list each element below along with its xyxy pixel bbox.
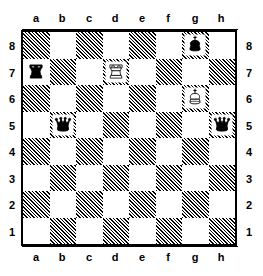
square-b7[interactable]	[50, 59, 77, 86]
chess-diagram: a b c d e f g h a b c d e f g h 8 7 6 5 …	[0, 0, 263, 276]
black-rook-icon[interactable]	[25, 61, 47, 83]
file-label-top-d: d	[108, 13, 122, 24]
square-d4[interactable]	[103, 138, 130, 165]
file-label-bottom-h: h	[214, 252, 228, 263]
square-a6[interactable]	[23, 85, 50, 112]
rank-label-right-5: 5	[243, 121, 255, 132]
square-e5[interactable]	[129, 112, 156, 139]
rank-label-left-7: 7	[6, 68, 18, 79]
piece-backdrop	[105, 61, 126, 82]
rank-label-right-4: 4	[243, 147, 255, 158]
square-e2[interactable]	[129, 191, 156, 218]
square-g5[interactable]	[182, 112, 209, 139]
board-border	[21, 30, 237, 246]
file-label-top-b: b	[55, 13, 69, 24]
square-h4[interactable]	[209, 138, 236, 165]
square-c4[interactable]	[76, 138, 103, 165]
square-f8[interactable]	[156, 32, 183, 59]
square-f1[interactable]	[156, 218, 183, 245]
square-h7[interactable]	[209, 59, 236, 86]
square-h2[interactable]	[209, 191, 236, 218]
file-label-top-h: h	[214, 13, 228, 24]
file-label-top-c: c	[82, 13, 96, 24]
square-d3[interactable]	[103, 165, 130, 192]
file-label-bottom-g: g	[188, 252, 202, 263]
square-e4[interactable]	[129, 138, 156, 165]
file-label-bottom-a: a	[29, 252, 43, 263]
square-g6[interactable]	[182, 85, 209, 112]
square-h6[interactable]	[209, 85, 236, 112]
chess-board	[23, 32, 235, 244]
square-c6[interactable]	[76, 85, 103, 112]
square-a2[interactable]	[23, 191, 50, 218]
square-b4[interactable]	[50, 138, 77, 165]
square-c3[interactable]	[76, 165, 103, 192]
square-g4[interactable]	[182, 138, 209, 165]
square-a1[interactable]	[23, 218, 50, 245]
square-h5[interactable]	[209, 112, 236, 139]
square-b6[interactable]	[50, 85, 77, 112]
square-e1[interactable]	[129, 218, 156, 245]
square-b1[interactable]	[50, 218, 77, 245]
rank-label-right-8: 8	[243, 41, 255, 52]
square-b5[interactable]	[50, 112, 77, 139]
square-f2[interactable]	[156, 191, 183, 218]
file-label-top-g: g	[188, 13, 202, 24]
square-b2[interactable]	[50, 191, 77, 218]
rank-label-left-5: 5	[6, 121, 18, 132]
square-e8[interactable]	[129, 32, 156, 59]
square-f3[interactable]	[156, 165, 183, 192]
rank-label-right-2: 2	[243, 200, 255, 211]
square-f6[interactable]	[156, 85, 183, 112]
square-f4[interactable]	[156, 138, 183, 165]
square-d6[interactable]	[103, 85, 130, 112]
square-g7[interactable]	[182, 59, 209, 86]
square-e6[interactable]	[129, 85, 156, 112]
file-label-bottom-d: d	[108, 252, 122, 263]
square-f5[interactable]	[156, 112, 183, 139]
square-c1[interactable]	[76, 218, 103, 245]
piece-backdrop	[185, 35, 206, 56]
rank-label-left-8: 8	[6, 41, 18, 52]
file-label-top-e: e	[135, 13, 149, 24]
square-f7[interactable]	[156, 59, 183, 86]
square-h1[interactable]	[209, 218, 236, 245]
square-c2[interactable]	[76, 191, 103, 218]
square-a5[interactable]	[23, 112, 50, 139]
square-d2[interactable]	[103, 191, 130, 218]
square-g1[interactable]	[182, 218, 209, 245]
square-d8[interactable]	[103, 32, 130, 59]
rank-label-right-7: 7	[243, 68, 255, 79]
rank-label-left-2: 2	[6, 200, 18, 211]
file-label-bottom-b: b	[55, 252, 69, 263]
square-a4[interactable]	[23, 138, 50, 165]
square-d7[interactable]	[103, 59, 130, 86]
rank-label-right-1: 1	[243, 227, 255, 238]
square-a8[interactable]	[23, 32, 50, 59]
file-label-bottom-e: e	[135, 252, 149, 263]
rank-label-left-6: 6	[6, 94, 18, 105]
square-h8[interactable]	[209, 32, 236, 59]
piece-backdrop	[52, 114, 73, 135]
square-c5[interactable]	[76, 112, 103, 139]
rank-label-right-6: 6	[243, 94, 255, 105]
rank-label-left-3: 3	[6, 174, 18, 185]
square-b3[interactable]	[50, 165, 77, 192]
rank-label-left-4: 4	[6, 147, 18, 158]
square-b8[interactable]	[50, 32, 77, 59]
square-c8[interactable]	[76, 32, 103, 59]
square-g2[interactable]	[182, 191, 209, 218]
file-label-bottom-c: c	[82, 252, 96, 263]
rank-label-right-3: 3	[243, 174, 255, 185]
square-e7[interactable]	[129, 59, 156, 86]
square-e3[interactable]	[129, 165, 156, 192]
square-c7[interactable]	[76, 59, 103, 86]
square-d1[interactable]	[103, 218, 130, 245]
square-a7[interactable]	[23, 59, 50, 86]
file-label-top-a: a	[29, 13, 43, 24]
square-d5[interactable]	[103, 112, 130, 139]
square-a3[interactable]	[23, 165, 50, 192]
square-g3[interactable]	[182, 165, 209, 192]
square-g8[interactable]	[182, 32, 209, 59]
square-h3[interactable]	[209, 165, 236, 192]
